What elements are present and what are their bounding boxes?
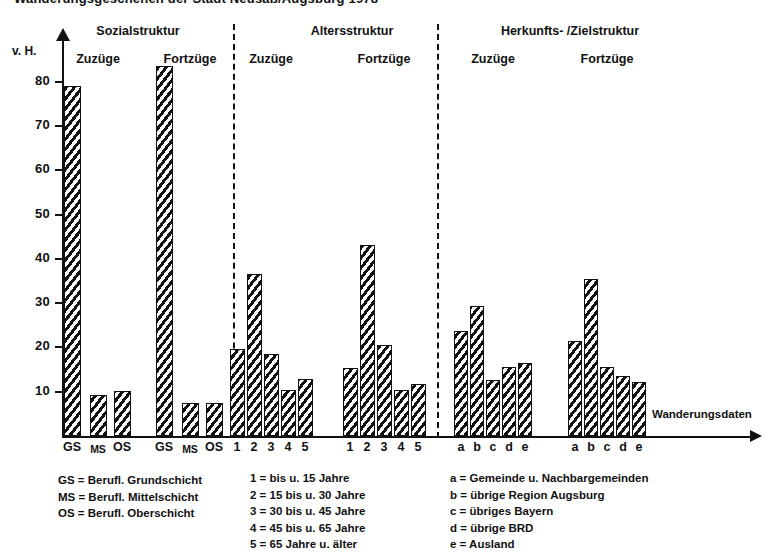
x-tick-label: c xyxy=(604,440,611,454)
bar-column xyxy=(360,0,375,436)
bar-column xyxy=(568,0,582,436)
bar xyxy=(411,384,426,436)
bar-column xyxy=(470,0,484,436)
bar xyxy=(616,376,630,436)
bar-column xyxy=(182,0,199,436)
legend-entry: d = übrige BRD xyxy=(450,520,648,537)
bar xyxy=(394,390,409,437)
bar xyxy=(502,367,516,436)
x-tick-label: 2 xyxy=(364,440,371,454)
bar xyxy=(298,379,313,436)
bar xyxy=(64,86,81,436)
bar xyxy=(632,382,646,436)
legend-entry: 3 = 30 bis u. 45 Jahre xyxy=(250,503,365,520)
bar xyxy=(206,403,223,436)
bar xyxy=(360,245,375,436)
bar xyxy=(156,66,173,436)
bar-column xyxy=(616,0,630,436)
x-tick-label: MS xyxy=(90,443,106,455)
bar xyxy=(90,395,107,436)
x-tick-label: 3 xyxy=(268,440,275,454)
bar-column xyxy=(281,0,296,436)
x-tick-label: c xyxy=(490,440,497,454)
bar xyxy=(584,279,598,436)
bar xyxy=(343,368,358,436)
bar-column xyxy=(90,0,107,436)
bar xyxy=(377,345,392,436)
bar-column xyxy=(600,0,614,436)
bar xyxy=(114,391,131,436)
legend-entry: 2 = 15 bis u. 30 Jahre xyxy=(250,487,365,504)
bar-column xyxy=(377,0,392,436)
x-tick-label: 4 xyxy=(285,440,292,454)
x-tick-label: b xyxy=(473,440,481,454)
bar-column xyxy=(206,0,223,436)
bar xyxy=(281,390,296,437)
legend-entry: OS = Berufl. Oberschicht xyxy=(58,505,202,522)
x-axis-line xyxy=(62,436,752,438)
bar xyxy=(486,380,500,436)
bar-column xyxy=(394,0,409,436)
bar-column xyxy=(230,0,245,436)
bar-column xyxy=(411,0,426,436)
x-tick-label: OS xyxy=(205,440,223,454)
legend-entry: 1 = bis u. 15 Jahre xyxy=(250,470,365,487)
legend-entry: GS = Berufl. Grundschicht xyxy=(58,472,202,489)
x-tick-label: GS xyxy=(155,440,173,454)
bar-column xyxy=(502,0,516,436)
legend-entry: c = übriges Bayern xyxy=(450,503,648,520)
bar xyxy=(230,349,245,436)
bar-column xyxy=(518,0,532,436)
bar xyxy=(247,274,262,436)
x-tick-label: b xyxy=(587,440,595,454)
x-tick-label: d xyxy=(505,440,513,454)
x-tick-label: 5 xyxy=(415,440,422,454)
bar-column xyxy=(584,0,598,436)
bar-column xyxy=(114,0,131,436)
legend-entry: a = Gemeinde u. Nachbargemeinden xyxy=(450,470,648,487)
bar xyxy=(600,367,614,436)
bar-column xyxy=(454,0,468,436)
bar-column xyxy=(64,0,81,436)
x-tick-label: MS xyxy=(182,443,198,455)
bar-column xyxy=(156,0,173,436)
x-tick-label: 1 xyxy=(347,440,354,454)
x-tick-label: GS xyxy=(63,440,81,454)
migration-bar-chart: Wanderungsgeschehen der Stadt Neusäß/Aug… xyxy=(0,0,773,556)
bar-column xyxy=(486,0,500,436)
bar-column xyxy=(247,0,262,436)
x-tick-label: OS xyxy=(113,440,131,454)
bar-column xyxy=(343,0,358,436)
bar xyxy=(454,331,468,436)
x-tick-label: 5 xyxy=(302,440,309,454)
bar xyxy=(182,403,199,436)
x-tick-label: 4 xyxy=(398,440,405,454)
bar-column xyxy=(298,0,313,436)
legend-social-structure: GS = Berufl. GrundschichtMS = Berufl. Mi… xyxy=(58,472,202,522)
legend-age-structure: 1 = bis u. 15 Jahre2 = 15 bis u. 30 Jahr… xyxy=(250,470,365,553)
legend-entry: e = Ausland xyxy=(450,536,648,553)
bar xyxy=(518,363,532,436)
x-tick-label: e xyxy=(636,440,643,454)
bar xyxy=(568,341,582,436)
legend-entry: 5 = 65 Jahre u. älter xyxy=(250,536,365,553)
x-tick-label: 2 xyxy=(251,440,258,454)
bar-column xyxy=(264,0,279,436)
legend-entry: b = übrige Region Augsburg xyxy=(450,487,648,504)
x-tick-label: d xyxy=(619,440,627,454)
x-tick-label: 3 xyxy=(381,440,388,454)
bar xyxy=(470,306,484,436)
x-tick-label: a xyxy=(458,440,465,454)
bars-layer xyxy=(0,0,773,436)
legend-entry: 4 = 45 bis u. 65 Jahre xyxy=(250,520,365,537)
bar-column xyxy=(632,0,646,436)
x-tick-label: a xyxy=(572,440,579,454)
legend-origin-structure: a = Gemeinde u. Nachbargemeindenb = übri… xyxy=(450,470,648,553)
bar xyxy=(264,354,279,436)
x-tick-label: 1 xyxy=(234,440,241,454)
x-tick-label: e xyxy=(522,440,529,454)
legend-entry: MS = Berufl. Mittelschicht xyxy=(58,489,202,506)
